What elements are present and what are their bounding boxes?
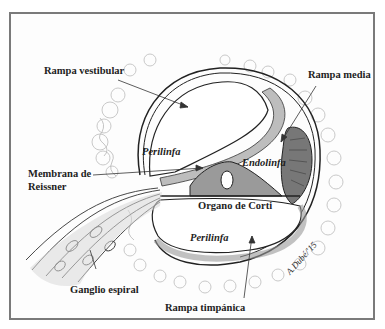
label-perilinfa-upper: Perilinfa <box>142 146 181 157</box>
cochlea-illustration <box>0 0 385 329</box>
label-membrana-reissner-1: Membrana de <box>28 168 91 179</box>
label-endolinfa: Endolinfa <box>242 157 286 168</box>
label-rampa-media: Rampa media <box>308 69 371 80</box>
label-rampa-vestibular: Rampa vestibular <box>44 65 124 76</box>
label-perilinfa-lower: Perilinfa <box>190 232 229 243</box>
label-organo-corti: Organo de Corti <box>198 200 272 211</box>
label-membrana-reissner-2: Reissner <box>28 181 67 192</box>
label-rampa-timpanica: Rampa timpánica <box>165 302 245 313</box>
label-ganglio-espiral: Ganglio espiral <box>70 284 139 295</box>
